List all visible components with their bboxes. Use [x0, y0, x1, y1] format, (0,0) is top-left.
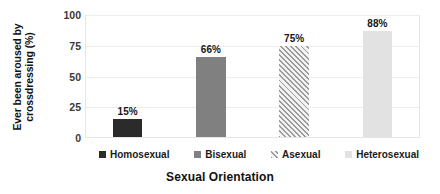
plot-area: 15%66%75%88%: [85, 15, 420, 138]
y-axis-tick-75: 75: [55, 40, 81, 52]
bar-fill-homosexual: [113, 119, 142, 137]
chart-legend: HomosexualBisexualAsexualHeterosexual: [85, 146, 425, 162]
bar-value-label-homosexual: 15%: [118, 106, 138, 117]
bar-value-label-asexual: 75%: [284, 33, 304, 44]
y-axis-title-text: Ever been aroused by crossdressing (%): [11, 7, 36, 147]
legend-swatch-icon-asexual: [271, 151, 278, 158]
legend-label-heterosexual: Heterosexual: [356, 149, 419, 160]
legend-swatch-icon-heterosexual: [345, 151, 352, 158]
legend-label-asexual: Asexual: [282, 149, 320, 160]
bar-value-label-heterosexual: 88%: [367, 18, 387, 29]
legend-item-heterosexual[interactable]: Heterosexual: [345, 149, 419, 160]
y-axis-tick-50: 50: [55, 71, 81, 83]
bar-bisexual[interactable]: 66%: [196, 57, 225, 137]
bar-fill-bisexual: [196, 57, 225, 137]
bar-value-label-bisexual: 66%: [201, 44, 221, 55]
bar-asexual[interactable]: 75%: [279, 46, 308, 137]
legend-swatch-icon-bisexual: [194, 151, 201, 158]
bar-heterosexual[interactable]: 88%: [363, 31, 392, 137]
legend-label-bisexual: Bisexual: [205, 149, 246, 160]
bar-homosexual[interactable]: 15%: [113, 119, 142, 137]
y-axis-tick-labels: 0255075100: [55, 8, 81, 143]
x-axis-title: Sexual Orientation: [0, 170, 440, 184]
bar-fill-heterosexual: [363, 31, 392, 137]
legend-item-asexual[interactable]: Asexual: [271, 149, 320, 160]
bar-chart: Ever been aroused by crossdressing (%) 0…: [0, 0, 440, 194]
y-axis-tick-0: 0: [55, 132, 81, 144]
y-axis-tick-25: 25: [55, 101, 81, 113]
x-axis-title-text: Sexual Orientation: [166, 170, 274, 184]
bars-layer: 15%66%75%88%: [86, 16, 419, 137]
bar-fill-asexual: [279, 46, 308, 137]
y-axis-title: Ever been aroused by crossdressing (%): [0, 7, 46, 147]
y-axis-tick-100: 100: [55, 9, 81, 21]
legend-item-bisexual[interactable]: Bisexual: [194, 149, 246, 160]
legend-swatch-icon-homosexual: [99, 151, 106, 158]
legend-label-homosexual: Homosexual: [110, 149, 169, 160]
legend-item-homosexual[interactable]: Homosexual: [99, 149, 169, 160]
